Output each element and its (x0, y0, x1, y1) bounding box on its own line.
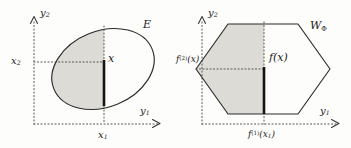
left-x2-tick-label: x2 (11, 56, 21, 67)
left-x1-tick-label: x1 (98, 130, 108, 141)
set-label-W-phi: WΦ (310, 20, 327, 32)
right-f2-tick-label: f(2)(x) (176, 55, 199, 64)
right-f1-tick-label: f(1)(x1) (248, 130, 275, 140)
left-vertical-axis-label: y2 (40, 8, 50, 19)
right-vertical-axis-label: y2 (208, 8, 218, 19)
left-fiber-label: x (108, 53, 114, 64)
right-fiber-label: f(x) (269, 52, 288, 63)
right-panel (196, 17, 339, 128)
left-horizontal-axis-label: y1 (140, 106, 150, 117)
math-figure (0, 0, 351, 148)
set-label-E: E (143, 19, 151, 30)
right-horizontal-axis-label: y1 (320, 106, 330, 117)
